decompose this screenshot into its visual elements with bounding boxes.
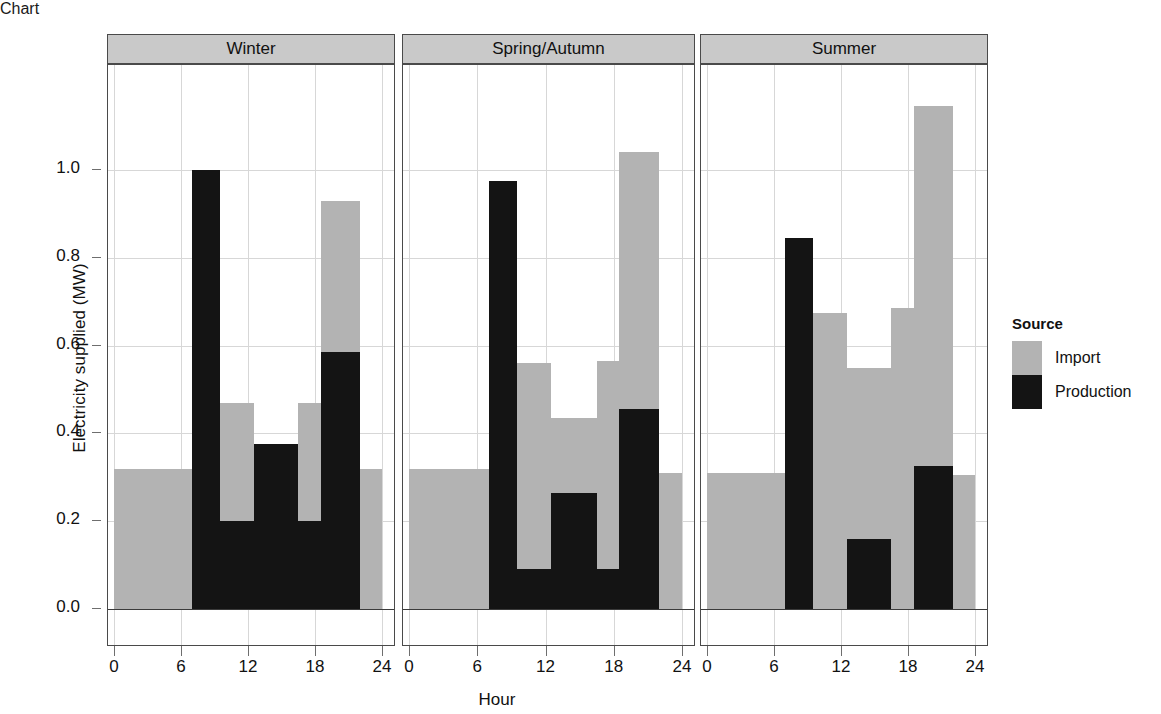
legend-item-production[interactable]: Production <box>1012 375 1132 409</box>
legend-swatch-production <box>1012 375 1042 409</box>
bar-import <box>321 201 360 352</box>
legend-title: Source <box>1012 315 1132 332</box>
legend-label-import: Import <box>1055 349 1100 367</box>
x-tick-mark <box>975 646 976 656</box>
facet-panel-winter: Winter <box>107 34 395 646</box>
x-tick-mark <box>248 646 249 656</box>
y-axis-title: Electricity supplied (MW) <box>70 158 90 558</box>
y-tick-label: 0.6 <box>28 334 80 354</box>
y-tick-mark <box>92 432 101 433</box>
plot-area <box>402 64 695 646</box>
y-tick-label: 0.8 <box>28 246 80 266</box>
bar-import <box>409 469 489 609</box>
bar-import <box>813 313 847 609</box>
x-tick-label: 0 <box>389 657 429 677</box>
y-tick-label: 0.4 <box>28 421 80 441</box>
x-tick-mark <box>682 646 683 656</box>
bar-production <box>847 539 892 609</box>
bar-import <box>298 403 320 522</box>
bar-production <box>914 466 953 609</box>
bar-production <box>785 238 813 609</box>
plot-area <box>107 64 395 646</box>
gridline-vertical <box>682 65 683 645</box>
x-tick-label: 12 <box>821 657 861 677</box>
bar-production <box>551 493 597 609</box>
x-tick-mark <box>315 646 316 656</box>
x-tick-label: 12 <box>228 657 268 677</box>
bar-production <box>619 409 659 609</box>
x-tick-mark <box>409 646 410 656</box>
x-tick-label: 12 <box>526 657 566 677</box>
facet-strip-label: Spring/Autumn <box>402 34 695 64</box>
x-tick-label: 18 <box>295 657 335 677</box>
bar-production <box>220 521 254 609</box>
x-tick-mark <box>181 646 182 656</box>
chart-root: Electricity supplied (MW) 0.00.20.40.60.… <box>0 18 1161 714</box>
x-tick-mark <box>382 646 383 656</box>
facet-strip-label: Summer <box>700 34 988 64</box>
y-tick-label: 1.0 <box>28 158 80 178</box>
y-tick-label: 0.0 <box>28 597 80 617</box>
x-tick-label: 18 <box>594 657 634 677</box>
y-tick-mark <box>92 520 101 521</box>
bar-import <box>517 363 551 569</box>
y-tick-mark <box>92 345 101 346</box>
facet-panel-spring-autumn: Spring/Autumn <box>402 34 695 646</box>
bar-import <box>891 308 913 609</box>
y-tick-mark <box>92 257 101 258</box>
bar-production <box>517 569 551 609</box>
x-tick-mark <box>841 646 842 656</box>
x-tick-mark <box>774 646 775 656</box>
gridline-vertical <box>975 65 976 645</box>
y-tick-mark <box>92 169 101 170</box>
legend-item-import[interactable]: Import <box>1012 341 1132 375</box>
bar-import <box>707 473 785 609</box>
baseline <box>701 609 987 610</box>
y-tick-mark <box>92 608 101 609</box>
y-tick-label: 0.2 <box>28 509 80 529</box>
facet-panel-summer: Summer <box>700 34 988 646</box>
plot-area <box>700 64 988 646</box>
x-tick-mark <box>546 646 547 656</box>
bar-import <box>220 403 254 522</box>
bar-production <box>597 569 620 609</box>
legend: Source Import Production <box>1012 315 1132 409</box>
x-tick-label: 6 <box>457 657 497 677</box>
bar-import <box>847 368 892 539</box>
legend-label-production: Production <box>1055 383 1132 401</box>
x-tick-label: 0 <box>687 657 727 677</box>
bar-production <box>298 521 320 609</box>
bar-import <box>914 106 953 466</box>
bar-import <box>114 469 192 609</box>
x-tick-mark <box>114 646 115 656</box>
x-tick-mark <box>707 646 708 656</box>
facet-strip-label: Winter <box>107 34 395 64</box>
bar-production <box>192 170 220 609</box>
bar-import <box>659 473 682 609</box>
gridline-horizontal <box>108 170 394 171</box>
x-tick-label: 18 <box>888 657 928 677</box>
x-tick-mark <box>477 646 478 656</box>
bar-import <box>360 469 382 609</box>
bar-import <box>619 152 659 409</box>
x-tick-label: 24 <box>955 657 995 677</box>
x-tick-label: 6 <box>754 657 794 677</box>
gridline-vertical <box>382 65 383 645</box>
bar-production <box>489 181 517 609</box>
baseline <box>403 609 694 610</box>
x-tick-label: 6 <box>161 657 201 677</box>
baseline <box>108 609 394 610</box>
legend-swatch-import <box>1012 341 1042 375</box>
x-tick-label: 0 <box>94 657 134 677</box>
bar-production <box>321 352 360 609</box>
x-tick-mark <box>614 646 615 656</box>
bar-import <box>551 418 597 493</box>
bar-import <box>953 475 975 609</box>
bar-production <box>254 444 299 609</box>
x-tick-mark <box>908 646 909 656</box>
x-axis-title: Hour <box>107 690 887 710</box>
bar-import <box>597 361 620 570</box>
